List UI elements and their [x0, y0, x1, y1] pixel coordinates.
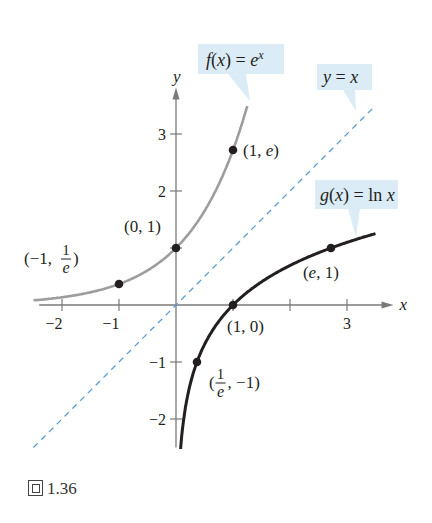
data-point: [229, 301, 238, 310]
x-axis-arrow: [382, 302, 394, 309]
x-tick-label: 3: [343, 315, 351, 332]
callout-g: g(x) = ln x: [315, 180, 398, 237]
point-label-numerator: 1: [217, 366, 225, 382]
point-label: (0, 1): [124, 217, 161, 236]
y-axis-label: y: [171, 67, 181, 86]
callout-yx: y = x: [317, 64, 372, 111]
x-tick-label: −2: [45, 315, 62, 332]
callout-g-text: g(x) = ln x: [320, 185, 395, 206]
data-point: [172, 244, 181, 253]
y-tick-label: 2: [158, 183, 166, 200]
caption-number: 1.36: [47, 479, 77, 498]
callout-f-text: f(x) = ex: [206, 48, 264, 71]
series-ln: [181, 234, 376, 449]
point-label: (e, 1): [303, 263, 339, 282]
figure-caption: 1.36: [28, 478, 77, 499]
x-axis-label: x: [399, 295, 408, 314]
callout-f: f(x) = ex: [198, 44, 284, 101]
point-label-suffix: , −1): [228, 373, 260, 392]
point-label-prefix: (−1,: [24, 249, 52, 268]
point-label: (1, 0): [227, 317, 264, 336]
data-point: [327, 244, 336, 253]
point-label: (−1, 1e): [24, 242, 79, 276]
point-label-prefix: (: [209, 373, 215, 392]
point-label-suffix: ): [73, 249, 79, 268]
point-label: (1e, −1): [209, 366, 260, 400]
points: (−1, 1e)(0, 1)(1, e)(1, 0)(e, 1)(1e, −1): [24, 141, 339, 400]
point-label-numerator: 1: [62, 242, 70, 258]
caption-figure-glyph: [28, 480, 43, 496]
y-tick-label: 3: [158, 126, 166, 143]
data-point: [115, 280, 124, 289]
y-axis-arrow: [173, 88, 180, 100]
y-tick-label: −2: [149, 411, 166, 428]
point-label-denominator: e: [62, 259, 69, 276]
point-label-denominator: e: [217, 383, 224, 400]
callout-yx-text: y = x: [321, 67, 358, 87]
data-point: [193, 358, 202, 367]
x-tick-label: −1: [102, 315, 119, 332]
y-tick-label: −1: [149, 354, 166, 371]
point-label: (1, e): [243, 141, 279, 160]
chart-svg: f(x) = ex y = x g(x) = ln x x y −2−13−2−…: [0, 0, 432, 470]
data-point: [229, 146, 238, 155]
